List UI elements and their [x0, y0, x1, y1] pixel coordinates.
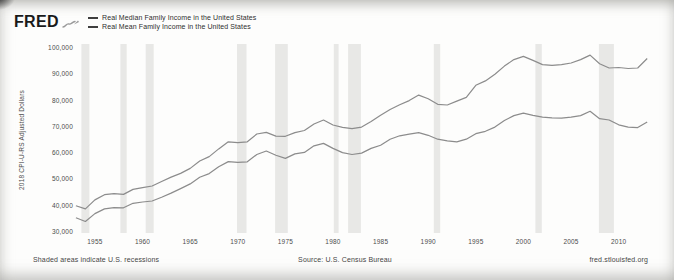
plot-area: [0, 0, 674, 280]
recession-band: [275, 44, 288, 233]
recession-band: [599, 44, 614, 233]
fred-chart-figure: FRED Real Median Family Income in the Un…: [0, 0, 674, 280]
recession-band: [237, 44, 247, 233]
recession-band: [348, 44, 361, 233]
median-income-line: [76, 111, 647, 221]
mean-income-line: [76, 55, 647, 209]
scan-corner-artifact: [0, 0, 15, 10]
recession-band: [146, 44, 154, 233]
recession-band: [81, 44, 89, 233]
recession-band: [120, 44, 126, 233]
recession-band: [334, 44, 339, 233]
recession-band: [535, 44, 541, 233]
